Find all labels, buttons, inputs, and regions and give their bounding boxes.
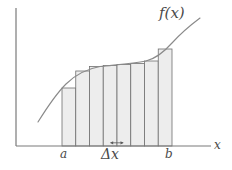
- riemann-rectangle: [90, 67, 104, 147]
- riemann-rectangle: [145, 61, 159, 146]
- riemann-rectangle: [158, 49, 172, 146]
- riemann-rectangle: [117, 65, 131, 147]
- riemann-rectangle: [76, 71, 90, 146]
- x-axis-label: x: [214, 139, 221, 151]
- riemann-rectangles: [62, 49, 172, 146]
- riemann-rectangle: [62, 88, 76, 146]
- riemann-rectangle: [103, 66, 117, 147]
- plot-canvas: [0, 0, 232, 170]
- function-label: f(x): [159, 6, 185, 21]
- riemann-sum-figure: f(x) a b x Δx: [0, 0, 232, 170]
- lower-limit-label: a: [60, 148, 67, 160]
- upper-limit-label: b: [165, 148, 173, 160]
- delta-x-label: Δx: [101, 147, 119, 161]
- riemann-rectangle: [131, 64, 145, 147]
